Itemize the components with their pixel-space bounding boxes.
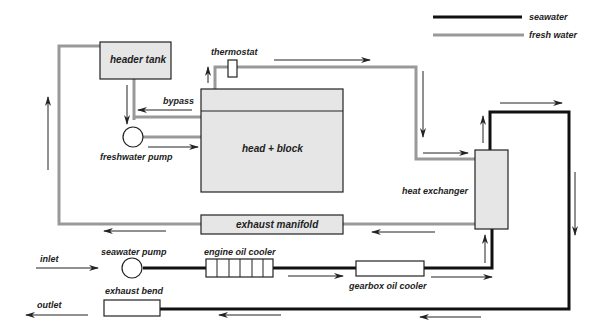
freshwater-pump: freshwater pump xyxy=(100,127,173,162)
legend-freshwater-label: fresh water xyxy=(529,30,578,40)
cooling-system-diagram: seawater fresh water header tank thermos… xyxy=(0,0,608,336)
exhaust-bend: exhaust bend xyxy=(104,286,164,316)
exhaust-bend-label: exhaust bend xyxy=(105,286,164,296)
engine-oil-cooler-label: engine oil cooler xyxy=(204,247,276,257)
seawater-pump-label: seawater pump xyxy=(101,247,167,257)
gearbox-oil-cooler-label: gearbox oil cooler xyxy=(348,281,427,291)
exhaust-manifold: exhaust manifold xyxy=(201,215,343,234)
header-tank: header tank xyxy=(100,42,171,79)
header-tank-label: header tank xyxy=(110,54,167,65)
legend-seawater-label: seawater xyxy=(529,12,568,22)
thermostat-pipe xyxy=(215,67,228,89)
head-block: head + block xyxy=(201,89,343,192)
heat-exchanger: heat exchanger xyxy=(402,150,508,229)
exhaust-manifold-label: exhaust manifold xyxy=(236,219,319,230)
thermostat: thermostat xyxy=(211,47,259,77)
bypass-label: bypass xyxy=(163,96,194,106)
thermostat-label: thermostat xyxy=(211,47,259,57)
seawater-pump: seawater pump xyxy=(101,247,167,278)
engine-oil-cooler: engine oil cooler xyxy=(204,247,276,277)
legend: seawater fresh water xyxy=(433,12,578,40)
gearbox-to-exchanger-pipe xyxy=(424,229,492,268)
freshwater-pump-label: freshwater pump xyxy=(100,152,173,162)
inlet-label: inlet xyxy=(40,254,60,264)
outlet-label: outlet xyxy=(37,300,62,310)
gearbox-oil-cooler: gearbox oil cooler xyxy=(348,261,427,291)
heat-exchanger-label: heat exchanger xyxy=(402,186,469,196)
head-block-label: head + block xyxy=(242,143,303,154)
